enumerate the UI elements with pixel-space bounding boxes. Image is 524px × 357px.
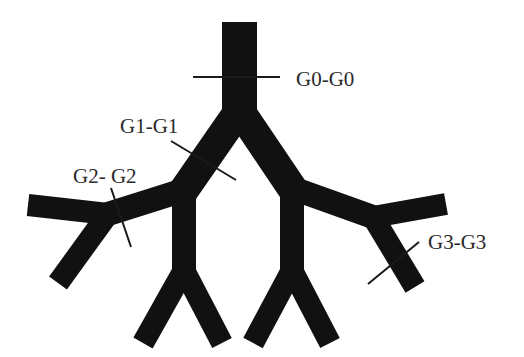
label-g0: G0-G0	[296, 69, 354, 90]
cross-section-lines	[111, 77, 419, 284]
branch-left-leg-inner	[184, 270, 222, 343]
branch-right-lateral	[292, 188, 373, 217]
branch-right-arm-lower	[373, 217, 415, 287]
airway-tree-diagram: G0-G0 G1-G1 G2- G2 G3-G3	[0, 0, 524, 357]
label-g1: G1-G1	[120, 116, 178, 137]
label-g2: G2- G2	[73, 166, 137, 187]
label-g3: G3-G3	[428, 232, 486, 253]
branch-left-arm-lower	[58, 214, 108, 283]
branch-right-primary	[240, 110, 293, 188]
branch-right-leg-outer	[292, 270, 330, 343]
